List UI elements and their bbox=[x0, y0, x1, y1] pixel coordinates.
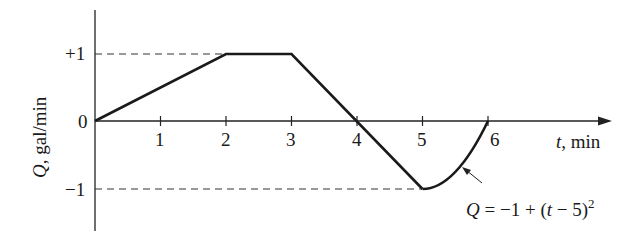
eq-body: = −1 + ( bbox=[480, 199, 547, 221]
x-axis-unit: , min bbox=[561, 131, 601, 152]
equation-annotation: Q = −1 + (t − 5)2 bbox=[466, 196, 595, 221]
y-axis-unit: , gal/min bbox=[29, 96, 50, 164]
flow-curve-parabola bbox=[423, 121, 489, 189]
x-tick-label-4: 4 bbox=[352, 129, 362, 150]
y-tick-label-plus1: +1 bbox=[65, 43, 85, 64]
eq-exponent: 2 bbox=[588, 196, 595, 211]
y-tick-label-minus1: −1 bbox=[65, 179, 85, 200]
x-axis-arrowhead-icon bbox=[598, 117, 612, 126]
x-tick-label-5: 5 bbox=[417, 129, 427, 150]
annotation-arrowhead-icon bbox=[462, 167, 471, 175]
y-axis-title: Q, gal/min bbox=[29, 96, 50, 178]
x-axis-title: t, min bbox=[556, 131, 601, 152]
flow-rate-chart: +1 0 −1 1 2 3 4 5 6 t, min Q, gal/min Q … bbox=[0, 0, 638, 244]
eq-q: Q bbox=[466, 199, 480, 220]
eq-tail: − 5) bbox=[552, 199, 588, 221]
x-tick-label-1: 1 bbox=[155, 129, 165, 150]
x-tick-label-2: 2 bbox=[221, 129, 231, 150]
y-axis-var: Q bbox=[29, 164, 50, 178]
x-tick-label-3: 3 bbox=[286, 129, 296, 150]
x-tick-label-6: 6 bbox=[490, 129, 500, 150]
y-tick-label-zero: 0 bbox=[78, 111, 88, 132]
